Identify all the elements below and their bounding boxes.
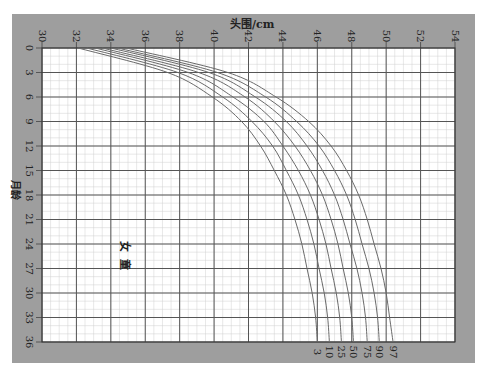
y-tick-label: 6: [24, 94, 35, 100]
x-tick-label: 52: [415, 30, 426, 43]
y-tick-label: 15: [24, 164, 35, 177]
y-tick-label: 0: [24, 45, 35, 51]
percentile-label-25: 25: [336, 346, 347, 359]
x-tick-label: 54: [450, 30, 461, 43]
y-tick-label: 9: [24, 118, 35, 124]
x-tick-label: 46: [312, 30, 323, 43]
x-tick-label: 44: [277, 30, 288, 43]
y-tick-label: 33: [24, 311, 35, 324]
percentile-label-3: 3: [312, 349, 323, 355]
x-tick-label: 34: [105, 30, 116, 43]
y-tick-label: 3: [24, 69, 35, 75]
x-tick-label: 30: [37, 30, 48, 43]
y-axis-label: 月龄: [10, 179, 22, 201]
x-tick-label: 38: [174, 30, 185, 43]
x-axis-ticks: 30323436384042444648505254: [37, 30, 461, 43]
y-tick-label: 24: [24, 238, 35, 251]
growth-chart: 30323436384042444648505254 0369121518212…: [0, 0, 483, 379]
percentile-label-10: 10: [324, 346, 335, 359]
svg-text:月龄: 月龄: [10, 179, 22, 201]
percentile-label-50: 50: [348, 346, 359, 359]
percentile-label-75: 75: [362, 346, 373, 359]
x-tick-label: 40: [209, 30, 220, 43]
y-axis-ticks: 0369121518212427303336: [24, 45, 35, 349]
svg-text:女: 女: [118, 241, 132, 252]
percentile-label-90: 90: [374, 346, 385, 359]
svg-text:童: 童: [118, 259, 132, 270]
percentile-label-97: 97: [388, 346, 399, 359]
y-tick-label: 18: [24, 189, 35, 202]
x-tick-label: 50: [381, 30, 392, 43]
y-tick-label: 30: [24, 287, 35, 300]
y-tick-label: 21: [24, 213, 35, 226]
percentile-labels: 3102550759097: [312, 346, 399, 359]
x-tick-label: 32: [71, 30, 82, 43]
y-tick-label: 36: [24, 336, 35, 349]
y-tick-label: 27: [24, 262, 35, 275]
x-tick-label: 48: [346, 30, 357, 43]
x-tick-label: 36: [140, 30, 151, 43]
y-tick-label: 12: [24, 140, 35, 153]
x-tick-label: 42: [243, 30, 254, 43]
